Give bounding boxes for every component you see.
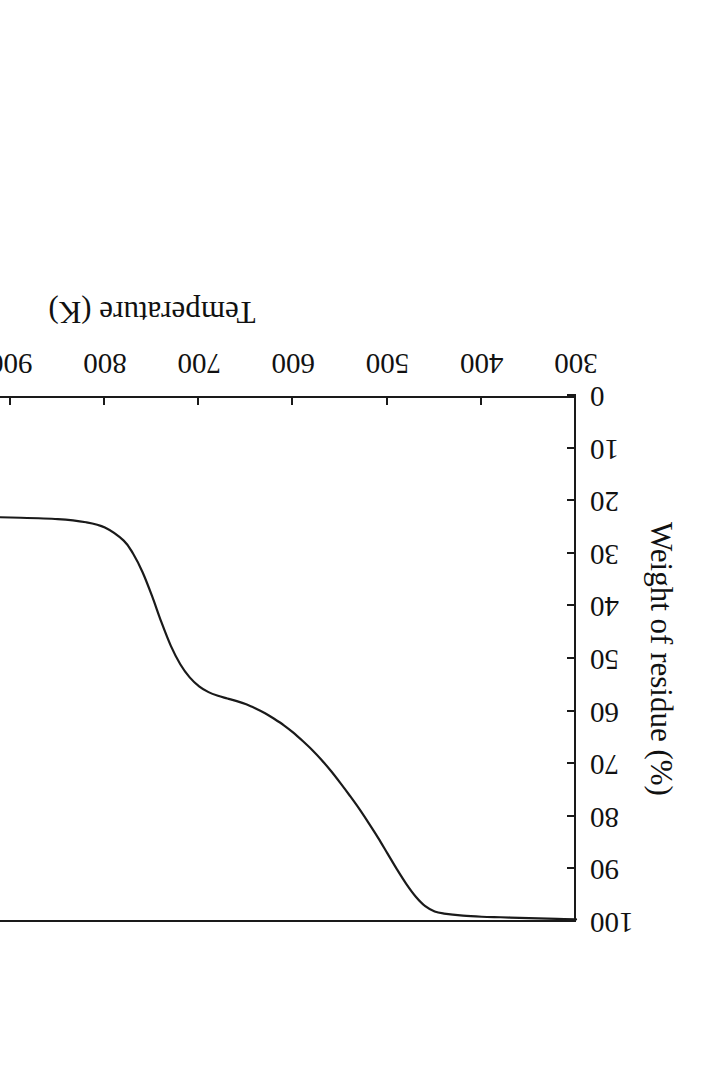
y-tick: [567, 604, 576, 606]
x-tick: [103, 396, 105, 405]
x-tick-label: 900: [0, 347, 32, 380]
x-tick: [574, 396, 576, 405]
x-tick-label: 600: [272, 347, 316, 380]
y-tick: [567, 447, 576, 449]
x-tick: [291, 396, 293, 405]
x-tick-label: 700: [177, 347, 221, 380]
y-tick-label: 100: [590, 906, 707, 939]
y-tick: [567, 394, 576, 396]
y-tick-label: 0: [590, 380, 707, 413]
y-tick-label: 90: [590, 853, 707, 886]
rotated-figure-container: 300400500600700800900100011001200 010203…: [0, 0, 707, 1076]
x-tick: [197, 396, 199, 405]
x-tick: [480, 396, 482, 405]
x-tick: [386, 396, 388, 405]
tga-curve: [0, 396, 576, 922]
y-tick: [567, 867, 576, 869]
y-tick: [567, 762, 576, 764]
x-tick: [9, 396, 11, 405]
chart-canvas: 300400500600700800900100011001200 010203…: [0, 0, 707, 1076]
y-tick: [567, 657, 576, 659]
y-tick-label: 10: [590, 432, 707, 465]
y-tick: [567, 710, 576, 712]
y-tick-label: 80: [590, 800, 707, 833]
y-tick: [567, 552, 576, 554]
x-tick-label: 800: [83, 347, 127, 380]
x-axis-title: Temperature (K): [49, 294, 256, 330]
x-tick-label: 300: [554, 347, 598, 380]
y-tick: [567, 920, 576, 922]
y-axis-title: Weight of residue (%): [643, 522, 679, 796]
x-tick-label: 500: [366, 347, 410, 380]
x-tick-label: 400: [460, 347, 504, 380]
y-tick: [567, 815, 576, 817]
plot-area: [0, 396, 576, 922]
y-tick-label: 20: [590, 485, 707, 518]
y-tick: [567, 499, 576, 501]
